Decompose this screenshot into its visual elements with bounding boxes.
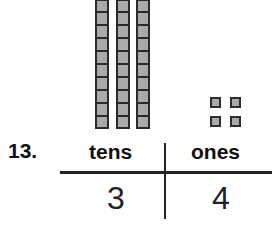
ones-header: ones [191,141,240,162]
problem-number: 13. [8,140,37,161]
ones-value: 4 [212,182,230,214]
unit-cube [230,97,241,108]
ten-rod [95,0,109,129]
tens-header: tens [89,141,132,162]
ten-rod [136,0,150,129]
unit-cube [230,116,241,127]
unit-cube [210,116,221,127]
chart-vertical-divider [164,143,166,219]
tens-value: 3 [107,182,125,214]
chart-horizontal-divider [60,171,272,174]
ten-rod [116,0,130,129]
unit-cube [210,97,221,108]
